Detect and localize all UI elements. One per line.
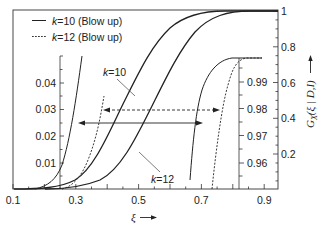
y-right-ticks [273,11,278,181]
x-tick-0.9: 0.9 [257,194,272,206]
inset-right-tick-0.98: 0.98 [247,103,268,115]
y-tick-0.2: 0.2 [281,148,296,160]
inset-left-tick-0.03: 0.03 [36,103,57,115]
inset-right-tick-0.97: 0.97 [247,130,268,142]
inset-right-tick-0.96: 0.96 [247,157,268,169]
svg-text:GX(ξ | D,I): GX(ξ | D,I) [304,80,319,128]
arrow-right-icon [151,215,157,219]
x-axis-label: ξ [131,211,136,224]
inset-right-axis [239,58,244,189]
inset-left-tick-0.02: 0.02 [36,130,57,142]
inset-right-tick-0.99: 0.99 [247,76,268,88]
legend-k12: k=12 (Blow up) [52,31,122,43]
y-label-rest: (ξ | D,I) [304,80,317,115]
x-tick-0.5: 0.5 [131,194,146,206]
inset-left-tick-0.01: 0.01 [36,157,57,169]
y-axis-title: GX(ξ | D,I) [304,55,319,128]
x-axis-title: ξ [131,211,157,224]
legend-k10: k=10 (Blow up) [52,15,122,27]
arrow-left-icon [78,121,85,126]
legend: k=10 (Blow up) k=12 (Blow up) [32,15,122,43]
arrow-right-icon [196,121,203,126]
y-tick-0.4: 0.4 [281,112,296,124]
arrow-right-icon [213,108,220,113]
x-tick-0.3: 0.3 [68,194,83,206]
annotation-k10: k=10 [103,66,126,78]
arrow-left-icon [103,108,110,113]
annotation-k10-value: =10 [108,66,126,78]
y-tick-1: 1 [281,5,287,17]
y-tick-0.6: 0.6 [281,77,296,89]
inset-left-tick-0.04: 0.04 [36,77,57,89]
annotation-k10-leader [117,79,135,96]
chart: 0.1 0.3 0.5 0.7 0.9 ξ 1 0.8 0.6 0.4 0.2 [0,0,322,226]
annotation-k12-value: =12 [156,173,174,185]
y-tick-0.8: 0.8 [281,41,296,53]
x-tick-0.1: 0.1 [6,194,21,206]
curve-k12-blowup-lower [62,96,104,189]
arrow-up-icon [308,55,312,61]
annotation-k12: k=12 [151,173,174,185]
y-label-G: G [304,120,316,128]
x-tick-0.7: 0.7 [194,194,209,206]
annotation-k12-leader [139,152,160,172]
x-axis-ticks [13,184,264,189]
